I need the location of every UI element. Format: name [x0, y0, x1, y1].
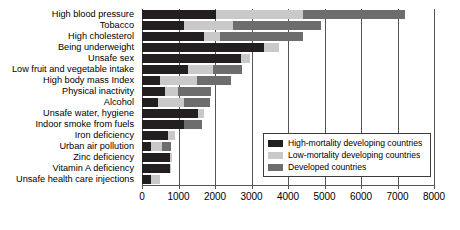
bar-segment	[142, 65, 188, 74]
bar-segment	[220, 32, 302, 41]
bar-segment	[213, 65, 242, 74]
bar-segment	[142, 76, 160, 85]
bar-row	[142, 109, 434, 118]
category-label: High cholesterol	[68, 31, 134, 42]
bar-segment	[158, 98, 184, 107]
legend-label: High-mortality developing countries	[288, 138, 422, 148]
bar-segment	[204, 32, 220, 41]
bar-row	[142, 10, 434, 19]
bar-segment	[184, 21, 233, 30]
bar-segment	[184, 98, 210, 107]
x-tick	[361, 185, 362, 189]
bar-row	[142, 98, 434, 107]
legend-swatch-icon	[268, 152, 283, 159]
bar-row	[142, 87, 434, 96]
category-label: Vitamin A deficiency	[52, 163, 134, 174]
stacked-bar-chart: High blood pressureTobaccoHigh cholester…	[0, 0, 460, 230]
bar-segment	[184, 120, 203, 129]
x-tick	[252, 185, 253, 189]
legend-label: Developed countries	[288, 162, 366, 172]
bar-segment	[151, 142, 162, 151]
bar-row	[142, 43, 434, 52]
category-label: Unsafe water, hygiene	[43, 108, 134, 119]
x-tick	[179, 185, 180, 189]
bar-segment	[142, 87, 165, 96]
bar-segment	[142, 131, 168, 140]
x-tick	[434, 185, 435, 189]
bar-segment	[165, 87, 178, 96]
x-tick-label: 8000	[404, 191, 460, 202]
bar-segment	[142, 153, 170, 162]
bar-segment	[142, 109, 198, 118]
bar-segment	[142, 120, 184, 129]
x-tick	[142, 185, 143, 189]
category-label: Alcohol	[104, 97, 134, 108]
legend-item[interactable]: High-mortality developing countries	[268, 137, 426, 149]
category-label: Urban air pollution	[59, 141, 134, 152]
bar-row	[142, 65, 434, 74]
category-label: Unsafe health care injections	[16, 174, 134, 185]
category-label: High blood pressure	[52, 9, 134, 20]
legend-swatch-icon	[268, 140, 283, 147]
legend-item[interactable]: Low-mortality developing countries	[268, 149, 426, 161]
bar-row	[142, 54, 434, 63]
bar-row	[142, 32, 434, 41]
bar-segment	[142, 54, 241, 63]
x-tick	[398, 185, 399, 189]
x-tick	[288, 185, 289, 189]
bar-segment	[142, 98, 158, 107]
category-label: Indoor smoke from fuels	[35, 119, 134, 130]
category-axis-labels: High blood pressureTobaccoHigh cholester…	[0, 9, 138, 185]
bar-segment	[142, 43, 264, 52]
bar-segment	[170, 164, 171, 173]
bar-segment	[142, 10, 216, 19]
legend-swatch-icon	[268, 164, 283, 171]
category-label: Iron deficiency	[75, 130, 134, 141]
bar-row	[142, 21, 434, 30]
bar-segment	[142, 21, 184, 30]
bar-segment	[188, 65, 214, 74]
category-label: Low fruit and vegetable intake	[12, 64, 134, 75]
x-tick	[325, 185, 326, 189]
bar-segment	[162, 142, 171, 151]
bar-segment	[303, 10, 405, 19]
bar-segment	[151, 175, 160, 184]
bar-segment	[170, 153, 172, 162]
bar-segment	[142, 142, 151, 151]
bar-segment	[142, 32, 204, 41]
category-label: Zinc deficiency	[73, 152, 134, 163]
category-label: Physical inactivity	[62, 86, 134, 97]
bar-segment	[241, 54, 250, 63]
bar-segment	[233, 21, 321, 30]
bar-segment	[178, 87, 211, 96]
legend-label: Low-mortality developing countries	[288, 150, 420, 160]
legend-item[interactable]: Developed countries	[268, 161, 426, 173]
category-label: Unsafe sex	[88, 53, 134, 64]
category-label: Tobacco	[100, 20, 134, 31]
bar-segment	[264, 43, 279, 52]
bar-segment	[216, 10, 303, 19]
bar-segment	[198, 109, 204, 118]
chart-legend: High-mortality developing countriesLow-m…	[263, 133, 431, 177]
bar-row	[142, 120, 434, 129]
category-label: High body mass Index	[43, 75, 134, 86]
bar-segment	[142, 164, 170, 173]
category-label: Being underweight	[58, 42, 134, 53]
bar-segment	[168, 131, 175, 140]
bar-row	[142, 76, 434, 85]
bar-segment	[160, 76, 197, 85]
bar-segment	[142, 175, 151, 184]
x-tick	[215, 185, 216, 189]
bar-segment	[197, 76, 232, 85]
gridline-8000	[434, 9, 435, 185]
